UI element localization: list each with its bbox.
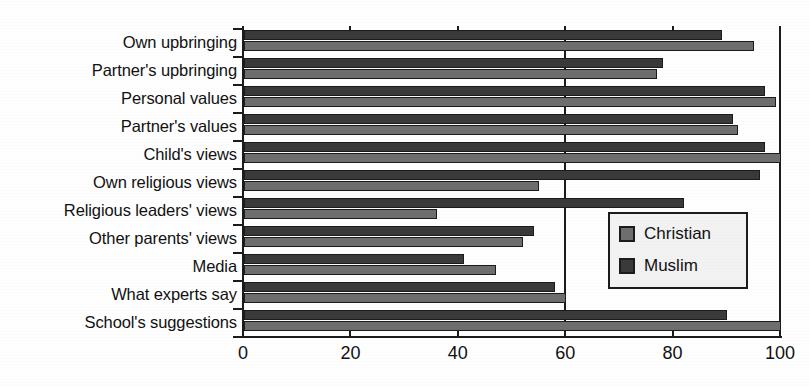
category-row: Partner's upbringing (0, 56, 809, 84)
bar-muslim (244, 170, 760, 180)
bar-group (244, 141, 781, 167)
bar-muslim (244, 142, 765, 152)
bar-christian (244, 69, 657, 79)
bar-muslim (244, 86, 765, 96)
bar-christian (244, 265, 496, 275)
category-row: Own upbringing (0, 28, 809, 56)
bar-christian (244, 181, 539, 191)
bar-christian (244, 153, 781, 163)
bar-group (244, 85, 781, 111)
legend-item-christian: Christian (619, 220, 711, 248)
bar-chart: Own upbringingPartner's upbringingPerson… (0, 0, 809, 386)
bar-group (244, 169, 781, 195)
x-axis-line (242, 336, 782, 338)
legend-label-muslim: Muslim (644, 256, 698, 276)
x-tick-label-40: 40 (448, 341, 468, 365)
bar-muslim (244, 282, 555, 292)
bar-muslim (244, 254, 464, 264)
bar-muslim (244, 30, 722, 40)
legend-label-christian: Christian (644, 224, 711, 244)
category-label: Own upbringing (123, 28, 237, 56)
bar-muslim (244, 58, 663, 68)
bar-muslim (244, 198, 684, 208)
x-tick-label-0: 0 (238, 341, 248, 365)
bar-group (244, 113, 781, 139)
bar-christian (244, 97, 776, 107)
category-label: Media (193, 252, 237, 280)
category-row: Partner's values (0, 112, 809, 140)
category-label: Own religious views (93, 168, 237, 196)
x-tick-label-20: 20 (340, 341, 360, 365)
bar-group (244, 57, 781, 83)
category-label: Partner's values (121, 112, 237, 140)
category-row: Personal values (0, 84, 809, 112)
category-label: School's suggestions (85, 308, 238, 336)
x-tick-label-80: 80 (663, 341, 683, 365)
x-tick-label-100: 100 (765, 341, 795, 365)
bar-christian (244, 321, 781, 331)
chart-legend: Christian Muslim (608, 212, 748, 289)
bar-christian (244, 293, 566, 303)
category-label: Partner's upbringing (92, 56, 237, 84)
bar-muslim (244, 114, 733, 124)
category-label: Personal values (121, 84, 237, 112)
bar-muslim (244, 226, 534, 236)
category-row: Own religious views (0, 168, 809, 196)
y-tick-baseline (233, 336, 244, 338)
bar-christian (244, 237, 523, 247)
category-label: Child's views (143, 140, 237, 168)
legend-item-muslim: Muslim (619, 252, 698, 280)
bar-group (244, 309, 781, 335)
category-rows: Own upbringingPartner's upbringingPerson… (0, 28, 809, 336)
category-label: Religious leaders' views (64, 196, 237, 224)
bar-christian (244, 209, 437, 219)
category-row: School's suggestions (0, 308, 809, 336)
category-label: What experts say (111, 280, 237, 308)
bar-christian (244, 41, 754, 51)
bar-group (244, 29, 781, 55)
x-tick-label-60: 60 (555, 341, 575, 365)
bar-christian (244, 125, 738, 135)
category-row: Child's views (0, 140, 809, 168)
x-axis-tick-labels: 020406080100 (0, 341, 809, 371)
legend-swatch-christian (619, 226, 635, 242)
legend-swatch-muslim (619, 258, 635, 274)
bar-muslim (244, 310, 727, 320)
category-label: Other parents' views (89, 224, 237, 252)
